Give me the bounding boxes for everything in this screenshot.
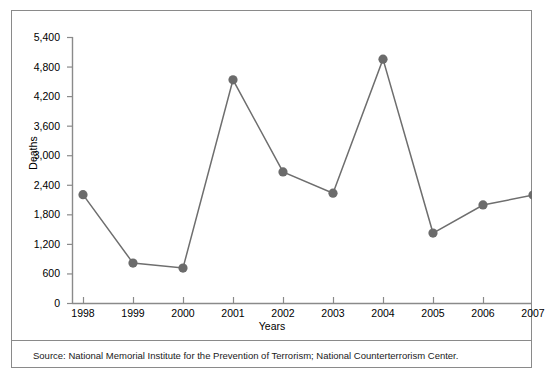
x-tick-label: 2006: [460, 308, 506, 319]
y-axis-title: Deaths: [27, 113, 39, 193]
source-divider: [12, 340, 531, 341]
x-tick-label: 2001: [210, 308, 256, 319]
x-tick-label: 2007: [510, 308, 549, 319]
source-note: Source: National Memorial Institute for …: [33, 350, 458, 362]
x-tick-label: 1998: [60, 308, 106, 319]
plot-area: 06001,2001,8002,4003,0003,6004,2004,8005…: [12, 11, 532, 323]
chart-figure: 06001,2001,8002,4003,0003,6004,2004,8005…: [11, 10, 532, 368]
x-tick-label: 1999: [110, 308, 156, 319]
x-tick-label: 2000: [160, 308, 206, 319]
x-axis-title: Years: [12, 320, 532, 332]
x-axis-tick-labels: 1998199920002001200220032004200520062007: [12, 11, 532, 323]
x-tick-label: 2002: [260, 308, 306, 319]
x-tick-label: 2005: [410, 308, 456, 319]
x-tick-label: 2003: [310, 308, 356, 319]
x-tick-label: 2004: [360, 308, 406, 319]
